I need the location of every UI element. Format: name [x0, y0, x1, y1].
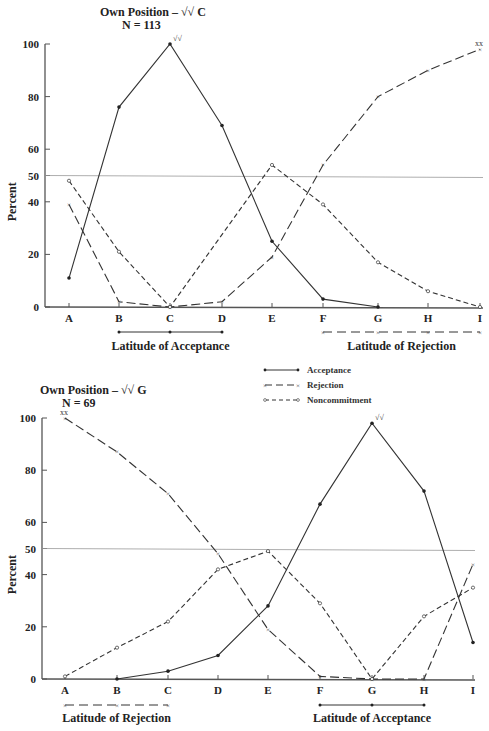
- marker-dot: [169, 331, 172, 334]
- marker-dot: [264, 369, 267, 372]
- x-tick-label: I: [478, 312, 482, 324]
- marker-x: ×: [115, 702, 119, 710]
- marker-x: ×: [426, 67, 430, 75]
- y-tick-label: 40: [25, 569, 37, 581]
- marker-circle: [318, 602, 321, 605]
- marker-circle: [266, 550, 269, 553]
- y-tick-label: 0: [31, 673, 37, 685]
- annotation: xx: [60, 408, 68, 417]
- marker-circle: [166, 620, 169, 623]
- annotation: xx: [475, 39, 483, 48]
- y-tick-label: 50: [28, 170, 40, 182]
- x-tick-label: D: [214, 684, 222, 696]
- marker-x: ×: [376, 93, 380, 101]
- marker-dot: [115, 677, 119, 681]
- marker-dot: [220, 124, 224, 128]
- marker-circle: [321, 203, 324, 206]
- marker-x: ×: [321, 161, 325, 169]
- marker-x: ×: [263, 382, 267, 390]
- latitude-acceptance-label: Latitude of Acceptance: [313, 711, 432, 725]
- marker-dot: [67, 276, 71, 280]
- x-tick-label: F: [320, 312, 327, 324]
- marker-dot: [319, 704, 322, 707]
- chart-2: Own Position – √√ GN = 6902040506080100P…: [5, 383, 475, 725]
- y-tick-label: 80: [25, 464, 37, 476]
- marker-circle: [216, 568, 219, 571]
- marker-dot: [117, 105, 121, 109]
- x-tick-label: E: [264, 684, 271, 696]
- x-tick-label: H: [424, 312, 433, 324]
- x-tick-label: G: [368, 684, 377, 696]
- reference-line-50: [42, 549, 475, 551]
- marker-dot: [422, 489, 426, 493]
- chart-n: N = 113: [122, 18, 161, 32]
- marker-circle: [264, 399, 267, 402]
- y-tick-label: 100: [23, 38, 40, 50]
- y-tick-label: 80: [28, 91, 40, 103]
- chart-title: Own Position – √√ C: [100, 5, 206, 19]
- marker-circle: [67, 179, 70, 182]
- marker-dot: [221, 331, 224, 334]
- latitude-rejection-label: Latitude of Rejection: [62, 711, 171, 725]
- marker-x: ×: [115, 448, 119, 456]
- marker-circle: [63, 675, 66, 678]
- marker-dot: [321, 297, 325, 301]
- marker-x: ×: [471, 561, 475, 569]
- marker-circle: [370, 677, 373, 680]
- marker-x: ×: [166, 490, 170, 498]
- series-acceptance: [117, 423, 473, 679]
- marker-x: ×: [422, 676, 426, 684]
- figure-canvas: Own Position – √√ CN = 11302040506080100…: [0, 0, 489, 731]
- marker-dot: [118, 331, 121, 334]
- x-tick-label: E: [268, 312, 275, 324]
- marker-x: ×: [321, 329, 325, 337]
- marker-x: ×: [426, 329, 430, 337]
- series-noncommitment: [69, 165, 480, 307]
- x-tick-label: F: [317, 684, 324, 696]
- x-tick-label: A: [65, 312, 73, 324]
- y-tick-label: 60: [28, 143, 40, 155]
- marker-x: ×: [296, 382, 300, 390]
- marker-dot: [471, 641, 475, 645]
- y-tick-label: 100: [20, 412, 37, 424]
- marker-circle: [297, 399, 300, 402]
- annotation: √√: [375, 413, 384, 422]
- x-tick-label: I: [471, 684, 475, 696]
- legend-label-acceptance: Acceptance: [307, 365, 351, 375]
- legend: Acceptance××RejectionNoncommitment: [263, 365, 371, 405]
- marker-circle: [168, 305, 171, 308]
- x-tick-label: A: [61, 684, 69, 696]
- marker-x: ×: [478, 329, 482, 337]
- y-tick-label: 20: [25, 621, 37, 633]
- y-tick-label: 20: [28, 248, 40, 260]
- marker-dot: [270, 239, 274, 243]
- marker-x: ×: [67, 201, 71, 209]
- x-tick-label: B: [113, 684, 121, 696]
- x-tick-label: C: [166, 312, 174, 324]
- x-tick-label: H: [420, 684, 429, 696]
- marker-x: ×: [270, 254, 274, 262]
- marker-dot: [266, 604, 270, 608]
- marker-dot: [371, 704, 374, 707]
- x-tick-label: G: [374, 312, 383, 324]
- y-tick-label: 0: [34, 301, 40, 313]
- marker-dot: [318, 502, 322, 506]
- series-rejection: [69, 49, 480, 307]
- marker-x: ×: [117, 298, 121, 306]
- marker-dot: [168, 42, 172, 46]
- y-tick-label: 60: [25, 516, 37, 528]
- marker-circle: [376, 261, 379, 264]
- marker-circle: [426, 290, 429, 293]
- marker-circle: [117, 250, 120, 253]
- y-axis-label: Percent: [5, 182, 19, 221]
- y-tick-label: 50: [25, 543, 37, 555]
- marker-dot: [166, 669, 170, 673]
- y-axis-label: Percent: [5, 555, 19, 594]
- marker-x: ×: [220, 298, 224, 306]
- marker-dot: [376, 305, 380, 309]
- chart-title: Own Position – √√ G: [40, 383, 147, 397]
- annotation: √√: [173, 34, 182, 43]
- marker-dot: [423, 704, 426, 707]
- latitude-rejection-label: Latitude of Rejection: [347, 339, 456, 353]
- y-tick-label: 40: [28, 196, 40, 208]
